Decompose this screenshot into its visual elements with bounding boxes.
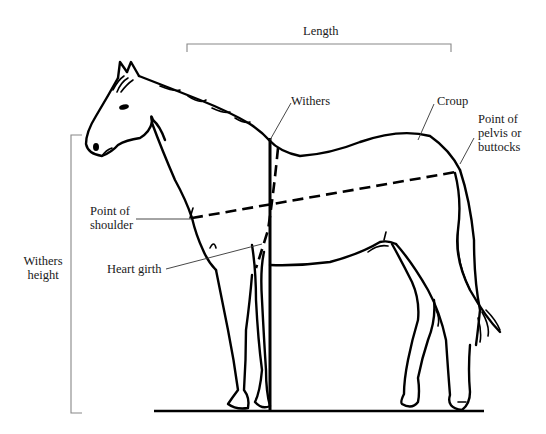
label-point-of-pelvis: Point of pelvis or buttocks <box>478 112 521 154</box>
label-shoulder-line2: shoulder <box>90 218 133 232</box>
heart-girth-line <box>256 148 278 268</box>
label-pelvis-line1: Point of <box>478 112 521 126</box>
label-withers-height: Withers height <box>18 254 68 282</box>
body-length-line <box>192 172 456 218</box>
length-bracket <box>187 44 451 52</box>
pelvis-leader <box>460 138 474 164</box>
label-croup: Croup <box>437 94 468 108</box>
withers-height-bracket <box>71 135 82 413</box>
label-withers-height-line1: Withers <box>18 254 68 268</box>
label-shoulder-line1: Point of <box>90 204 133 218</box>
label-withers-height-line2: height <box>18 268 68 282</box>
horse-measurement-diagram: Length Withers Croup Point of pelvis or … <box>0 0 546 434</box>
label-withers: Withers <box>291 94 330 108</box>
label-length: Length <box>303 24 338 38</box>
horse-illustration <box>0 0 546 434</box>
withers-leader <box>270 103 291 140</box>
label-point-of-shoulder: Point of shoulder <box>90 204 133 232</box>
label-pelvis-line3: buttocks <box>478 140 521 154</box>
label-heart-girth: Heart girth <box>107 262 162 276</box>
horse-outline <box>86 62 500 410</box>
heart-girth-leader <box>166 244 262 269</box>
label-pelvis-line2: pelvis or <box>478 126 521 140</box>
